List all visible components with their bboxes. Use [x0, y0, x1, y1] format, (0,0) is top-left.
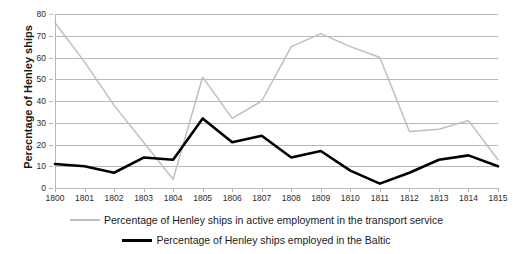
series-line [55, 23, 498, 180]
y-tick-mark [49, 166, 53, 167]
y-tick-mark [49, 101, 53, 102]
legend-swatch-icon [122, 239, 152, 242]
chart-legend: Percentage of Henley ships in active emp… [0, 210, 513, 250]
x-tick-mark [409, 188, 410, 192]
y-tick-label: 20 [37, 140, 46, 150]
y-tick-label: 50 [37, 74, 46, 84]
line-chart: Perecntage of Henley ships 0102030405060… [0, 0, 513, 254]
x-tick-mark [144, 188, 145, 192]
x-tick-mark [232, 188, 233, 192]
legend-item[interactable]: Percentage of Henley ships employed in t… [0, 230, 513, 250]
legend-label: Percentage of Henley ships in active emp… [104, 214, 443, 226]
legend-item[interactable]: Percentage of Henley ships in active emp… [0, 210, 513, 230]
x-tick-mark [468, 188, 469, 192]
x-tick-mark [262, 188, 263, 192]
y-tick-label: 10 [37, 161, 46, 171]
series-layer [55, 14, 498, 188]
y-axis-ticks: 01020304050607080 [0, 0, 55, 202]
y-tick-mark [49, 145, 53, 146]
y-tick-label: 60 [37, 53, 46, 63]
legend-label: Percentage of Henley ships employed in t… [156, 234, 390, 246]
x-tick-mark [55, 188, 56, 192]
x-tick-mark [321, 188, 322, 192]
plot-area [55, 14, 498, 188]
legend-swatch-icon [70, 219, 100, 221]
x-tick-mark [203, 188, 204, 192]
y-tick-mark [49, 188, 53, 189]
x-tick-mark [350, 188, 351, 192]
series-paths [55, 14, 498, 188]
series-line [55, 118, 498, 183]
y-tick-mark [49, 58, 53, 59]
y-tick-label: 30 [37, 118, 46, 128]
y-tick-label: 70 [37, 31, 46, 41]
x-axis-ticks: 1800180118021803180418051806180718081809… [55, 188, 498, 210]
y-tick-mark [49, 36, 53, 37]
x-tick-mark [85, 188, 86, 192]
x-tick-mark [291, 188, 292, 192]
x-tick-mark [114, 188, 115, 192]
y-tick-label: 0 [41, 183, 46, 193]
y-tick-label: 40 [37, 96, 46, 106]
x-tick-label: 1815 [478, 193, 513, 203]
y-tick-label: 80 [37, 9, 46, 19]
x-tick-mark [380, 188, 381, 192]
y-tick-mark [49, 14, 53, 15]
x-tick-mark [439, 188, 440, 192]
x-tick-mark [173, 188, 174, 192]
x-tick-mark [498, 188, 499, 192]
y-tick-mark [49, 79, 53, 80]
y-tick-mark [49, 123, 53, 124]
